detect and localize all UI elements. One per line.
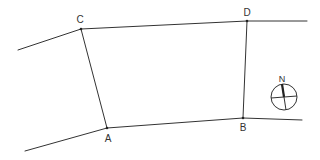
- point-b-marker: [242, 117, 245, 120]
- point-b-label: B: [240, 122, 247, 133]
- side-line-d-b: [243, 21, 247, 118]
- survey-diagram: A B C D N: [0, 0, 320, 160]
- point-a-label: A: [105, 133, 112, 144]
- upper-boundary-line: [18, 21, 307, 50]
- point-a-marker: [106, 127, 109, 130]
- north-arrow-compass-icon: [271, 84, 297, 110]
- lower-boundary-line: [25, 118, 302, 151]
- side-line-c-a: [81, 29, 107, 128]
- point-c-label: C: [76, 14, 83, 25]
- point-d-marker: [246, 20, 249, 23]
- point-d-label: D: [243, 7, 250, 18]
- north-label: N: [279, 74, 286, 84]
- point-c-marker: [80, 28, 83, 31]
